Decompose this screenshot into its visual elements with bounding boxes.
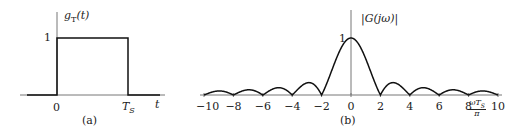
b-xlabel: ωTS π xyxy=(468,99,486,118)
b-xtick: −8 xyxy=(225,101,241,112)
b-xtick: −4 xyxy=(284,101,300,112)
b-xtick: −6 xyxy=(255,101,271,112)
b-xtick: 6 xyxy=(436,101,443,112)
b-ytick-1: 1 xyxy=(339,33,346,44)
rect-pulse xyxy=(27,38,160,95)
figure-a-plot xyxy=(20,12,165,95)
a-xtick-0: 0 xyxy=(53,102,60,113)
a-xtick-ts: TS xyxy=(122,101,135,115)
b-xtick: −10 xyxy=(196,101,219,112)
b-xtick: 0 xyxy=(348,101,355,112)
a-xlabel: t xyxy=(155,99,159,110)
caption-a: (a) xyxy=(82,114,97,127)
a-ytick-1: 1 xyxy=(44,32,51,43)
b-xtick: 10 xyxy=(491,101,505,112)
figure-b-plot xyxy=(200,10,502,97)
a-ylabel: gT(t) xyxy=(64,10,89,24)
b-xtick: 4 xyxy=(406,101,413,112)
b-xtick: −2 xyxy=(314,101,330,112)
b-ylabel: |G(jω)| xyxy=(361,13,398,24)
b-xtick: 2 xyxy=(377,101,384,112)
caption-b: (b) xyxy=(340,114,356,127)
